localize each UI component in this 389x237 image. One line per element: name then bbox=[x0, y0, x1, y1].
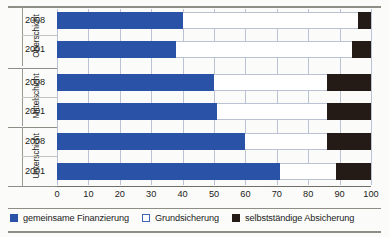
legend-item: gemeinsame Finanzierung bbox=[10, 213, 129, 223]
x-tick-label: 0 bbox=[42, 189, 72, 199]
bar-row bbox=[57, 12, 371, 29]
bar-row bbox=[57, 41, 371, 58]
row-label: 2008 bbox=[25, 77, 55, 87]
bar-segment-3 bbox=[327, 103, 371, 120]
group-label-mittelschicht: Mittelschicht bbox=[31, 63, 41, 129]
legend-swatch-icon bbox=[232, 214, 240, 222]
gridline bbox=[371, 9, 372, 185]
legend-top-rule bbox=[8, 208, 381, 209]
gridline bbox=[183, 9, 184, 185]
gridline bbox=[277, 9, 278, 185]
gridline bbox=[57, 9, 58, 185]
row-label: 2008 bbox=[25, 136, 55, 146]
row-separator bbox=[22, 97, 57, 98]
row-separator bbox=[22, 156, 57, 157]
x-tick-label: 50 bbox=[199, 189, 229, 199]
x-tick-label: 100 bbox=[356, 189, 386, 199]
gridline bbox=[151, 9, 152, 185]
bar-segment-1 bbox=[57, 12, 183, 29]
legend-item: Grundsicherung bbox=[142, 213, 219, 223]
bar-segment-1 bbox=[57, 103, 217, 120]
row-label: 2001 bbox=[25, 44, 55, 54]
x-tick-label: 70 bbox=[262, 189, 292, 199]
bar-segment-3 bbox=[327, 133, 371, 150]
legend-label: Grundsicherung bbox=[155, 213, 219, 223]
legend-label: gemeinsame Finanzierung bbox=[23, 213, 129, 223]
row-separator bbox=[22, 35, 57, 36]
row-label: 2001 bbox=[25, 166, 55, 176]
gridline bbox=[120, 9, 121, 185]
bar-segment-3 bbox=[336, 163, 371, 180]
bar-row bbox=[57, 74, 371, 91]
legend-label: selbstständige Absicherung bbox=[245, 213, 354, 223]
gridline bbox=[214, 9, 215, 185]
gridline bbox=[340, 9, 341, 185]
x-tick-label: 20 bbox=[105, 189, 135, 199]
top-rule bbox=[8, 6, 381, 8]
x-axis-line bbox=[57, 186, 371, 187]
bar-segment-1 bbox=[57, 41, 176, 58]
x-tick-label: 80 bbox=[293, 189, 323, 199]
bar-segment-2 bbox=[217, 103, 327, 120]
bar-row bbox=[57, 163, 371, 180]
row-label: 2008 bbox=[25, 15, 55, 25]
bar-row bbox=[57, 103, 371, 120]
x-tick-label: 10 bbox=[73, 189, 103, 199]
bar-segment-2 bbox=[176, 41, 352, 58]
bar-segment-2 bbox=[280, 163, 337, 180]
row-label: 2001 bbox=[25, 106, 55, 116]
gridline bbox=[88, 9, 89, 185]
bar-segment-3 bbox=[358, 12, 371, 29]
bar-segment-3 bbox=[352, 41, 371, 58]
bar-segment-2 bbox=[245, 133, 327, 150]
bar-segment-3 bbox=[327, 74, 371, 91]
legend-item: selbstständige Absicherung bbox=[232, 213, 354, 223]
group-divider bbox=[22, 7, 23, 66]
x-tick-label: 90 bbox=[325, 189, 355, 199]
x-tick-label: 40 bbox=[168, 189, 198, 199]
legend-swatch-icon bbox=[10, 214, 18, 222]
bar-segment-1 bbox=[57, 74, 214, 91]
x-tick-label: 60 bbox=[230, 189, 260, 199]
stacked-bar-chart: Oberschicht20082001Mittelschicht20082001… bbox=[0, 0, 389, 237]
x-tick-label: 30 bbox=[136, 189, 166, 199]
bar-segment-2 bbox=[183, 12, 359, 29]
legend-bottom-rule bbox=[8, 231, 381, 233]
gridline bbox=[308, 9, 309, 185]
gridline bbox=[245, 9, 246, 185]
bar-segment-1 bbox=[57, 163, 280, 180]
plot-area bbox=[57, 9, 371, 185]
bar-row bbox=[57, 133, 371, 150]
chart-legend: gemeinsame FinanzierungGrundsicherungsel… bbox=[10, 213, 354, 223]
bar-segment-1 bbox=[57, 133, 245, 150]
legend-swatch-icon bbox=[142, 214, 150, 222]
bar-segment-2 bbox=[214, 74, 327, 91]
